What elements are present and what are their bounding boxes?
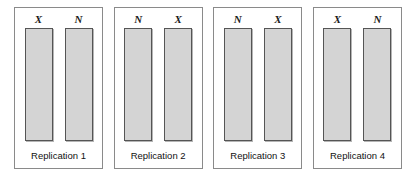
treatment-label-row-1: X N — [15, 8, 102, 28]
plot-bars-row-4 — [314, 28, 401, 144]
replication-panel-2: N X Replication 2 — [114, 7, 203, 169]
treatment-label-row-4: X N — [314, 8, 401, 28]
plot-bar — [264, 28, 292, 141]
replication-panel-4: X N Replication 4 — [313, 7, 402, 169]
plot-bars-row-1 — [15, 28, 102, 144]
panel-caption: Replication 4 — [314, 144, 401, 168]
plot-bar — [65, 28, 93, 141]
treatment-label-row-2: N X — [115, 8, 202, 28]
treatment-label: N — [124, 14, 152, 25]
treatment-label: N — [65, 14, 93, 25]
panel-caption: Replication 1 — [15, 144, 102, 168]
treatment-label: X — [264, 14, 292, 25]
treatment-label: X — [323, 14, 351, 25]
replication-panel-1: X N Replication 1 — [14, 7, 103, 169]
plot-bar — [124, 28, 152, 141]
plot-bar — [224, 28, 252, 141]
plot-bar — [363, 28, 391, 141]
plot-bars-row-2 — [115, 28, 202, 144]
plot-bar — [323, 28, 351, 141]
panel-caption: Replication 3 — [214, 144, 301, 168]
replication-panel-3: N X Replication 3 — [213, 7, 302, 169]
treatment-label-row-3: N X — [214, 8, 301, 28]
treatment-label: X — [164, 14, 192, 25]
replication-diagram: X N Replication 1 N X Replication 2 N — [0, 0, 416, 177]
treatment-label: X — [25, 14, 53, 25]
panel-caption: Replication 2 — [115, 144, 202, 168]
treatment-label: N — [363, 14, 391, 25]
replication-panel-group: X N Replication 1 N X Replication 2 N — [14, 7, 402, 169]
plot-bar — [25, 28, 53, 141]
plot-bars-row-3 — [214, 28, 301, 144]
plot-bar — [164, 28, 192, 141]
treatment-label: N — [224, 14, 252, 25]
